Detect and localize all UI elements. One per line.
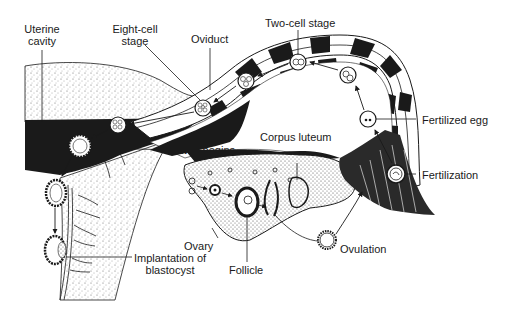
label-implantation-of-blastocyst: Implantation of blastocyst — [133, 252, 207, 276]
label-eight-cell-stage: Eight-cell stage — [105, 23, 165, 47]
label-ovulation: Ovulation — [340, 243, 386, 255]
label-line: Implantation of — [133, 252, 207, 264]
fertilization-diagram: Uterine cavity Eight-cell stage Oviduct … — [0, 0, 506, 319]
label-uterine-cavity: Uterine cavity — [20, 23, 64, 47]
corpus-luteum — [289, 177, 308, 207]
label-corpus-luteum: Corpus luteum — [260, 131, 332, 143]
label-two-cell-stage: Two-cell stage — [265, 17, 335, 29]
label-follicle: Follicle — [229, 264, 263, 276]
label-line: blastocyst — [133, 264, 207, 276]
label-line: stage — [105, 35, 165, 47]
ovary — [184, 154, 355, 241]
label-line: Eight-cell — [105, 23, 165, 35]
label-line: cavity — [20, 35, 64, 47]
label-cavity-begins: Cavity begins — [169, 144, 235, 156]
label-oviduct: Oviduct — [191, 33, 228, 45]
label-fertilized-egg: Fertilized egg — [422, 114, 488, 126]
label-line: Uterine — [20, 23, 64, 35]
label-ovary: Ovary — [184, 240, 213, 252]
label-fertilization: Fertilization — [422, 169, 478, 181]
